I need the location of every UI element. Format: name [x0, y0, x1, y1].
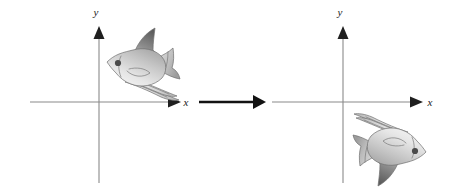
- image-x-axis: [272, 97, 423, 108]
- image-y-axis-label: y: [337, 6, 343, 18]
- arrow-right-thick-icon: [253, 95, 266, 109]
- pre-image-y-axis: [94, 26, 105, 183]
- image-x-axis-label: x: [427, 96, 433, 108]
- pre-image-x-axis: [30, 97, 181, 108]
- figure-canvas: x y x y: [0, 0, 452, 193]
- fish-icon-pre-image: [107, 28, 180, 100]
- pre-image-y-axis-label: y: [93, 6, 99, 18]
- image-y-axis: [338, 26, 349, 183]
- pre-image-x-axis-label: x: [183, 96, 189, 108]
- panel-image: x y: [272, 6, 433, 186]
- panel-pre-image: x y: [30, 6, 189, 183]
- arrow-right-icon: [410, 97, 423, 108]
- arrow-up-icon: [94, 26, 105, 39]
- arrow-up-icon: [338, 26, 349, 39]
- maps-to-arrow: [199, 95, 266, 109]
- fish-icon-image: [353, 114, 426, 186]
- geometry-figure: x y x y: [0, 0, 452, 193]
